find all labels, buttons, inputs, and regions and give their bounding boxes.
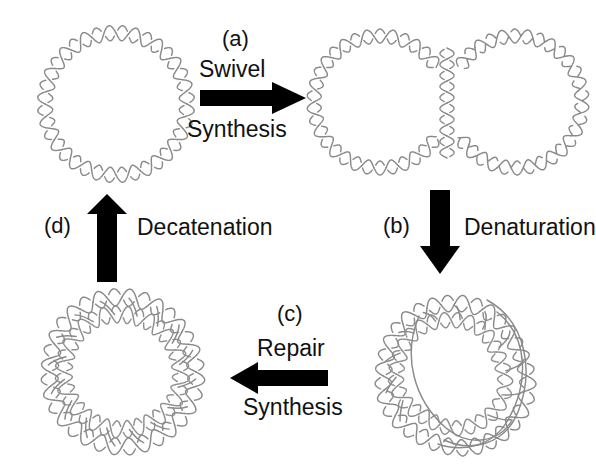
arrow-right-icon xyxy=(200,82,306,114)
panel-label-d: (d) xyxy=(44,215,71,237)
step-c-line1: Repair xyxy=(257,337,325,360)
arrow-left-icon xyxy=(230,362,328,394)
step-b-line1: Denaturation xyxy=(464,216,596,239)
step-a-line2: Synthesis xyxy=(187,118,287,141)
step-a-line1: Swivel xyxy=(199,58,265,81)
structure-replicated-twin-circles xyxy=(307,29,588,175)
structure-circular-dna-duplex xyxy=(38,26,194,182)
panel-label-b: (b) xyxy=(383,215,410,237)
panel-label-c: (c) xyxy=(277,303,303,325)
structure-catenated-double-ring xyxy=(41,289,204,455)
arrow-up-icon xyxy=(87,194,127,282)
arrow-down-icon xyxy=(420,190,460,274)
step-c-line2: Synthesis xyxy=(243,396,343,419)
step-d-line1: Decatenation xyxy=(137,216,273,239)
panel-label-a: (a) xyxy=(222,28,249,50)
structure-partially-denatured-catenane xyxy=(375,295,536,456)
